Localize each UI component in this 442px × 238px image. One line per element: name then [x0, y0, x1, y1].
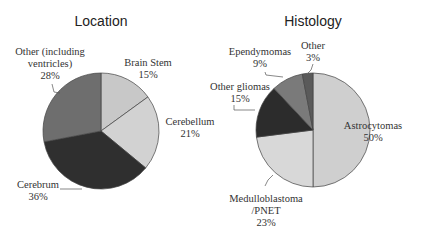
label-ependymomas-pct: 9%: [253, 58, 267, 69]
label-other-gliomas: Other gliomas: [210, 81, 270, 92]
label-other-histology: Other: [301, 40, 325, 51]
label-other-histology-pct: 3%: [306, 52, 320, 63]
pie-slice-other-including-ventricles-: [43, 73, 101, 142]
label-other-gliomas-pct: 15%: [230, 93, 250, 104]
label-ependymomas: Ependymomas: [229, 46, 291, 57]
label-other-location-pct: 28%: [40, 70, 60, 81]
pie-charts: Location Histology Brain Stem 15% Cerebe…: [0, 0, 442, 238]
label-cerebrum-pct: 36%: [28, 191, 48, 202]
label-cerebellum: Cerebellum: [166, 116, 215, 127]
location-title: Location: [75, 13, 128, 29]
label-cerebellum-pct: 21%: [180, 128, 200, 139]
label-medulloblastoma-2: /PNET: [251, 205, 281, 216]
label-cerebrum: Cerebrum: [17, 179, 59, 190]
label-medulloblastoma-pct: 23%: [256, 217, 276, 228]
label-brain-stem-pct: 15%: [138, 69, 158, 80]
label-other-location: Other (including: [15, 46, 85, 58]
label-brain-stem: Brain Stem: [124, 57, 172, 68]
pie-slice-medulloblastoma-pnet: [256, 130, 313, 187]
label-astrocytomas-pct: 50%: [363, 132, 383, 143]
label-other-location-2: ventricles): [28, 58, 73, 70]
label-astrocytomas: Astrocytomas: [344, 120, 402, 131]
location-pie: [43, 73, 159, 189]
label-medulloblastoma: Medulloblastoma: [229, 193, 303, 204]
histology-title: Histology: [284, 13, 342, 29]
